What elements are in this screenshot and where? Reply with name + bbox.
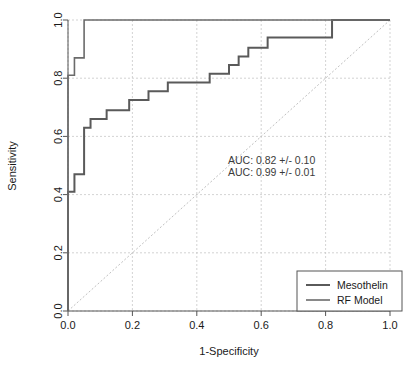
y-tick-label: 0.4 (52, 187, 64, 202)
x-tick-label: 0.4 (189, 319, 204, 331)
y-tick-label: 0.2 (52, 245, 64, 260)
x-axis-title: 1-Specificity (199, 345, 259, 357)
y-tick-label: 0.0 (52, 303, 64, 318)
x-tick-label: 0.0 (60, 319, 75, 331)
y-tick-label: 0.8 (52, 71, 64, 86)
x-tick-label: 1.0 (382, 319, 397, 331)
chart-legend[interactable]: MesothelinRF Model (297, 271, 402, 311)
x-tick-label: 0.6 (254, 319, 269, 331)
legend-label-rf-model: RF Model (337, 294, 383, 306)
auc-annotations: AUC: 0.82 +/- 0.10 AUC: 0.99 +/- 0.01 (228, 154, 315, 178)
y-tick-label: 1.0 (52, 12, 64, 27)
roc-chart: 0.00.20.40.60.81.0 0.00.20.40.60.81.0 1-… (0, 0, 417, 378)
legend-label-mesothelin: Mesothelin (337, 279, 388, 291)
auc-annotation-mesothelin: AUC: 0.82 +/- 0.10 (228, 154, 315, 166)
auc-annotation-rf-model: AUC: 0.99 +/- 0.01 (228, 166, 315, 178)
y-axis-title: Sensitivity (6, 141, 18, 191)
x-tick-label: 0.2 (125, 319, 140, 331)
y-tick-label: 0.6 (52, 129, 64, 144)
x-tick-label: 0.8 (318, 319, 333, 331)
roc-plot-svg: 0.00.20.40.60.81.0 0.00.20.40.60.81.0 1-… (0, 0, 417, 378)
